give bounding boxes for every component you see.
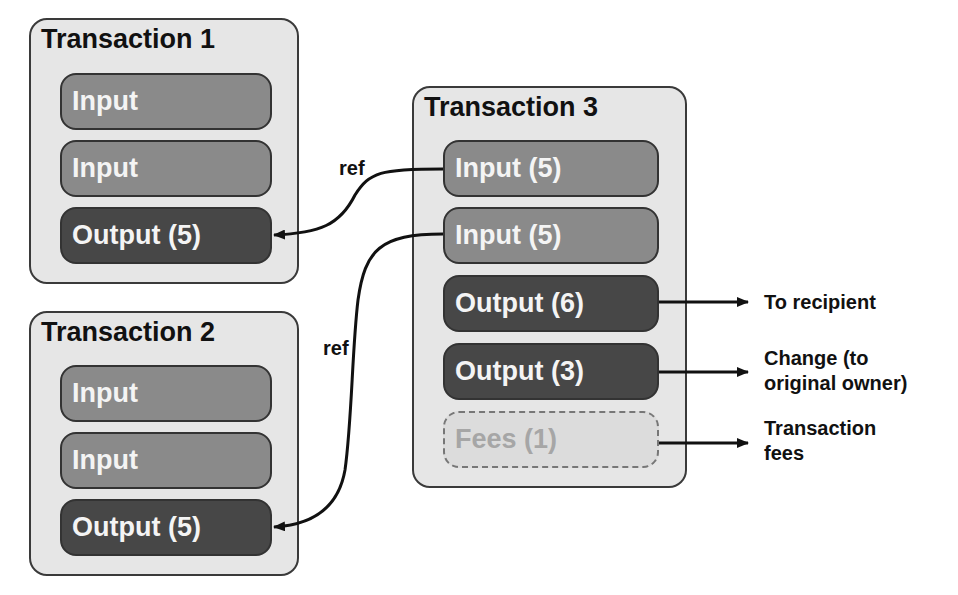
- destination-change-line-2: original owner): [764, 371, 907, 396]
- destination-change: Change (to original owner): [764, 346, 907, 396]
- ref-label-1: ref: [339, 156, 365, 181]
- ref-label-2: ref: [323, 336, 349, 361]
- destination-fees-line-2: fees: [764, 441, 876, 466]
- destination-change-line-1: Change (to: [764, 346, 907, 371]
- destination-recipient: To recipient: [764, 290, 876, 315]
- destination-fees-line-1: Transaction: [764, 416, 876, 441]
- destination-fees: Transaction fees: [764, 416, 876, 466]
- ref-arrow-2: [274, 234, 443, 527]
